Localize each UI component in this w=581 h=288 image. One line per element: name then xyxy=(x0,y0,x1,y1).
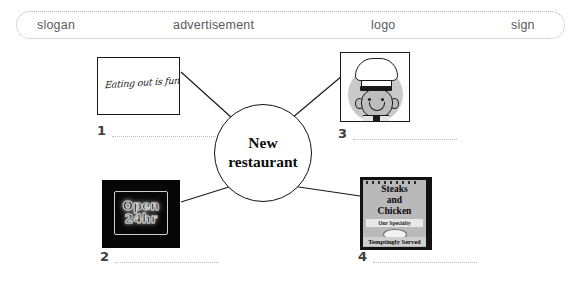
answer-number-1: 1 xyxy=(97,124,106,137)
word-bank-item-logo[interactable]: logo xyxy=(371,18,395,32)
answer-row-3: 3 xyxy=(338,127,457,140)
chef-eye-right-icon xyxy=(381,98,384,101)
center-node-line-1: New xyxy=(248,134,277,153)
center-node-line-2: restaurant xyxy=(228,153,297,172)
sign-line-chicken: Chicken xyxy=(378,207,412,217)
neon-sign-image: Open 24hr xyxy=(102,180,180,248)
chef-logo-image xyxy=(340,52,410,122)
sign-served-text: Temptingly Served xyxy=(363,237,426,246)
slogan-script-text: Eating out is fun xyxy=(105,75,176,90)
image-card-restaurant-sign: Steaks and Chicken Our Specialty Temptin… xyxy=(360,177,432,250)
restaurant-sign-panel: Steaks and Chicken Our Specialty Temptin… xyxy=(363,180,426,247)
answer-number-2: 2 xyxy=(100,250,109,263)
image-card-slogan: Eating out is fun xyxy=(97,57,180,115)
answer-row-1: 1 xyxy=(97,124,216,137)
answer-line-2[interactable] xyxy=(115,252,219,263)
answer-line-1[interactable] xyxy=(112,126,216,137)
image-card-neon-sign: Open 24hr xyxy=(102,180,180,248)
word-bank-item-sign[interactable]: sign xyxy=(511,18,535,32)
answer-row-2: 2 xyxy=(100,250,219,263)
chef-hat-band-icon xyxy=(360,86,392,91)
word-bank: slogan advertisement logo sign xyxy=(16,11,565,39)
restaurant-sign-image: Steaks and Chicken Our Specialty Temptin… xyxy=(360,177,432,250)
neon-frame: Open 24hr xyxy=(114,191,168,235)
concept-diagram: New restaurant Eating out is fun Open 24… xyxy=(0,44,581,288)
chef-hat-top-icon xyxy=(355,58,398,81)
center-node: New restaurant xyxy=(214,104,312,202)
slogan-image: Eating out is fun xyxy=(97,57,180,115)
neon-text-hours: 24hr xyxy=(125,213,157,226)
chef-tie-icon xyxy=(373,115,380,122)
answer-number-4: 4 xyxy=(358,250,367,263)
chef-eye-left-icon xyxy=(368,98,371,101)
word-bank-item-advertisement[interactable]: advertisement xyxy=(173,18,254,32)
answer-row-4: 4 xyxy=(358,250,477,263)
image-card-chef-logo xyxy=(340,52,410,122)
sign-specialty-text: Our Specialty xyxy=(366,219,424,227)
neon-text-open: Open xyxy=(123,200,160,213)
answer-line-4[interactable] xyxy=(373,252,477,263)
answer-number-3: 3 xyxy=(338,127,347,140)
word-bank-item-slogan[interactable]: slogan xyxy=(37,18,75,32)
sign-line-and: and xyxy=(387,196,402,206)
sign-line-steaks: Steaks xyxy=(381,185,407,195)
answer-line-3[interactable] xyxy=(353,129,457,140)
sign-bulb-row-icon xyxy=(366,181,420,184)
